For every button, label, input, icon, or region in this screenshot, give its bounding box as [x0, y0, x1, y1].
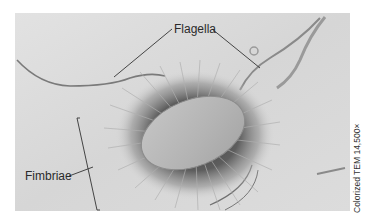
- fimbriae-label: Fimbriae: [25, 170, 72, 182]
- image-credit-caption: Colorized TEM 14,500×: [352, 124, 362, 213]
- micrograph-figure: Flagella Fimbriae Colorized TEM 14,500×: [0, 0, 372, 223]
- flagella-label: Flagella: [174, 23, 216, 35]
